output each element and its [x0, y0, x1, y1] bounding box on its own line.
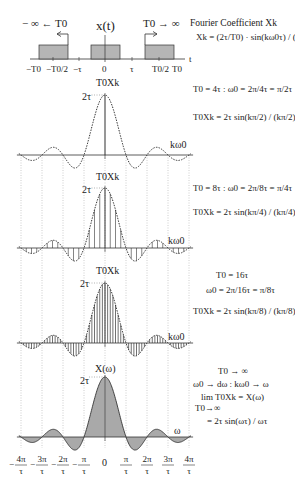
tick-neg-tau: −τ: [73, 64, 82, 74]
svg-text:3π: 3π: [37, 454, 47, 464]
bottom-tick: πτ−: [72, 454, 90, 476]
panel3-eq1: T0 = 16τ: [216, 270, 248, 280]
panel3-ylabel: T0Xk: [96, 265, 119, 276]
panel3-eq2: ω0 = 2π/16τ = π/8τ: [206, 285, 275, 295]
panel2-xlabel: kω0: [168, 235, 185, 246]
panel-2: [17, 186, 193, 261]
tick-T0-half: T0/2: [152, 64, 169, 74]
svg-text:−: −: [72, 459, 77, 469]
panel-labels: T0Xk 2τ kω0 T0Xk 2τ kω0 T0Xk 2τ kω0 X(ω)…: [80, 77, 187, 436]
svg-text:τ: τ: [145, 466, 149, 476]
bottom-tick: 4πτ: [183, 454, 195, 476]
svg-text:π: π: [82, 454, 87, 464]
panel1-ylabel: T0Xk: [96, 77, 119, 88]
svg-text:τ: τ: [166, 466, 170, 476]
svg-text:3π: 3π: [163, 454, 173, 464]
panel4-eq5: = 2τ sin(ωτ) / ωτ: [207, 416, 267, 426]
svg-text:2π: 2π: [58, 454, 68, 464]
panel1-xlabel: kω0: [170, 139, 187, 150]
svg-text:−: −: [51, 459, 56, 469]
panel4-ylabel: X(ω): [95, 363, 115, 375]
panel4-eq1: T0 → ∞: [218, 366, 248, 376]
svg-text:π: π: [124, 454, 129, 464]
right-arrow-label: T0 → ∞: [143, 17, 180, 29]
svg-text:τ: τ: [82, 466, 86, 476]
panel3-xlabel: kω0: [168, 331, 185, 342]
panel4-peak: 2τ: [80, 375, 89, 386]
tick-T0: T0: [172, 64, 182, 74]
svg-text:2π: 2π: [142, 454, 152, 464]
svg-text:0: 0: [102, 457, 107, 468]
panel-3: [17, 281, 193, 356]
panel4-eq4: T0→∞: [195, 403, 220, 413]
header-title: Fourier Coefficient Xk: [190, 18, 277, 29]
panel1-eq1: T0 = 4τ : ω0 = 2π/4τ = π/2τ: [193, 84, 292, 94]
panel4-eq3: lim T0Xk = X(ω): [201, 392, 264, 402]
bottom-tick: 3πτ: [162, 454, 174, 476]
tick-tau: τ: [130, 64, 134, 74]
svg-text:−: −: [9, 459, 14, 469]
bottom-tick: πτ: [120, 454, 132, 476]
left-arrow-label: − ∞ ← T0: [22, 17, 68, 29]
svg-text:τ: τ: [61, 466, 65, 476]
panel2-ylabel: T0Xk: [96, 171, 119, 182]
panel2-peak: 2τ: [82, 184, 91, 195]
svg-text:4π: 4π: [184, 454, 194, 464]
panel3-eq3: T0Xk = 2τ sin(kπ/8) / (kπ/8): [193, 306, 295, 316]
panel-4: [17, 375, 193, 450]
svg-text:τ: τ: [187, 466, 191, 476]
panel1-eq2: T0Xk = 2τ sin(kπ/2) / (kπ/2): [193, 112, 295, 122]
panel3-peak: 2τ: [80, 278, 89, 289]
bottom-tick: 3πτ−: [30, 454, 48, 476]
bottom-axis-ticks: 4πτ−3πτ−2πτ−πτ−0πτ2πτ3πτ4πτ: [9, 454, 195, 476]
tick-zero: 0: [102, 64, 107, 74]
tick-neg-T0-half: −T0/2: [46, 64, 68, 74]
panel2-eq2: T0Xk = 2τ sin(kπ/4) / (kπ/4): [193, 207, 295, 217]
bottom-tick: 2πτ: [141, 454, 153, 476]
signal-label: x(t): [96, 18, 115, 33]
svg-text:−: −: [30, 459, 35, 469]
bottom-tick: 0: [102, 457, 107, 468]
panel1-peak: 2τ: [82, 91, 91, 102]
time-axis-label: t: [189, 54, 192, 64]
tick-neg-T0: −T0: [26, 64, 42, 74]
pulse-train: x(t) − ∞ ← T0 T0 → ∞ t −T0 −T0/2 −τ 0 τ …: [22, 17, 192, 74]
header-formula: Xk = (2τ/T0) · sin(kω0τ) / (kω0τ): [196, 32, 295, 42]
panel2-eq1: T0 = 8τ : ω0 = 2π/8τ = π/4τ: [193, 183, 292, 193]
svg-text:τ: τ: [40, 466, 44, 476]
panel4-eq2: ω0 → dω : kω0 → ω: [193, 379, 269, 389]
svg-text:τ: τ: [124, 466, 128, 476]
svg-text:τ: τ: [19, 466, 23, 476]
svg-text:4π: 4π: [16, 454, 26, 464]
bottom-tick: 2πτ−: [51, 454, 69, 476]
bottom-tick: 4πτ−: [9, 454, 27, 476]
panel-1: [17, 93, 193, 168]
panel4-xlabel: ω: [174, 425, 181, 436]
